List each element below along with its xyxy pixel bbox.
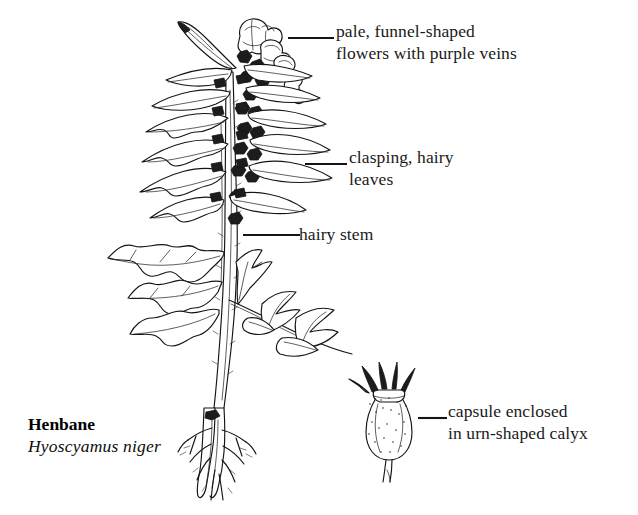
annotation-label-leaves: clasping, hairy leaves [349,146,454,190]
species-caption: Henbane Hyoscyamus niger [28,414,161,457]
clasping-hairy-leaves [140,64,332,222]
annotation-leaves-line2: leaves [349,169,393,189]
lance-shaped-bract [178,22,236,69]
illustration-page: .ln { fill:none; stroke:#141414; stroke-… [0,0,638,515]
annotation-capsule-line2: in urn-shaped calyx [448,423,588,443]
common-name: Henbane [28,414,161,435]
lateral-leafy-branch [229,292,352,357]
annotation-flowers-line1: pale, funnel-shaped [336,21,475,41]
annotation-label-capsule: capsule enclosed in urn-shaped calyx [448,400,588,444]
annotation-capsule-line1: capsule enclosed [448,401,568,421]
annotation-label-flowers: pale, funnel-shaped flowers with purple … [336,20,517,64]
urn-shaped-calyx-capsule [349,362,415,482]
branching-taproot [178,408,256,500]
scientific-name: Hyoscyamus niger [28,435,161,457]
annotation-leaves-line1: clasping, hairy [349,147,454,167]
annotation-flowers-line2: flowers with purple veins [336,43,517,63]
annotation-label-stem: hairy stem [299,223,373,245]
annotation-stem-line1: hairy stem [299,224,373,244]
